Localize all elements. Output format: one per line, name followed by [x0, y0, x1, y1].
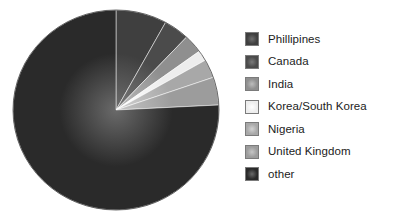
legend-item-united-kingdom[interactable]: United Kingdom — [245, 141, 396, 164]
legend-swatch-other — [245, 167, 259, 181]
legend-swatch-united-kingdom — [245, 145, 259, 159]
legend-item-canada[interactable]: Canada — [245, 51, 396, 74]
legend-label-phillipines: Phillipines — [268, 33, 320, 46]
legend-label-india: India — [268, 78, 293, 91]
legend-label-united-kingdom: United Kingdom — [268, 145, 351, 158]
legend-item-india[interactable]: India — [245, 73, 396, 96]
legend-item-other[interactable]: other — [245, 163, 396, 186]
legend-item-nigeria[interactable]: Nigeria — [245, 118, 396, 141]
legend-label-canada: Canada — [268, 55, 309, 68]
legend-label-korea-south-korea: Korea/South Korea — [268, 100, 367, 113]
legend-item-korea-south-korea[interactable]: Korea/South Korea — [245, 96, 396, 119]
legend-swatch-korea-south-korea — [245, 100, 259, 114]
legend-swatch-phillipines — [245, 32, 259, 46]
legend-label-other: other — [268, 168, 294, 181]
legend-swatch-nigeria — [245, 122, 259, 136]
pie-plot-area — [0, 0, 240, 216]
legend-swatch-india — [245, 77, 259, 91]
legend-label-nigeria: Nigeria — [268, 123, 305, 136]
pie-svg — [0, 0, 240, 216]
legend-item-phillipines[interactable]: Phillipines — [245, 28, 396, 51]
legend-swatch-canada — [245, 55, 259, 69]
pie-chart-figure: Phillipines Canada India Korea/South Kor… — [0, 0, 396, 216]
pie-slice-group — [13, 10, 219, 210]
legend: Phillipines Canada India Korea/South Kor… — [245, 28, 396, 186]
